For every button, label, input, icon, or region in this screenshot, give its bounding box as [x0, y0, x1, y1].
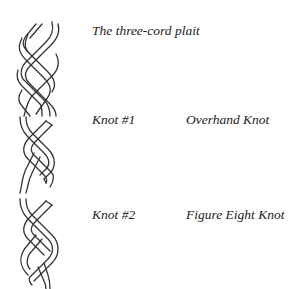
- knot-1-title: Knot #1: [92, 112, 135, 128]
- knot-2-title: Knot #2: [92, 207, 135, 223]
- three-cord-plait-figure: [0, 18, 70, 118]
- knot-2-name: Figure Eight Knot: [186, 207, 285, 223]
- plait-title: The three-cord plait: [92, 23, 200, 39]
- knot-1-name: Overhand Knot: [186, 112, 269, 128]
- figure-eight-knot-figure: [0, 195, 70, 289]
- overhand-knot-figure: [0, 115, 70, 195]
